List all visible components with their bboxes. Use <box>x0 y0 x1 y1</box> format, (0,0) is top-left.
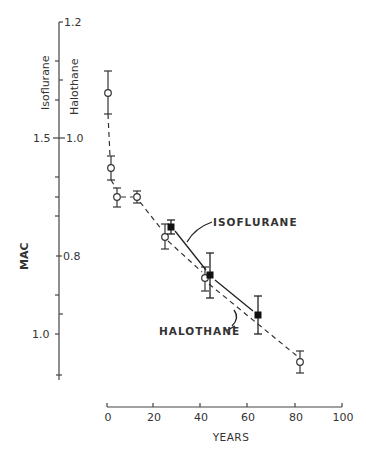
y-tick-isoflurane-1.5: 1.5 <box>33 132 51 145</box>
isoflurane-callout-label: ISOFLURANE <box>213 216 298 228</box>
x-axis-title: YEARS <box>212 431 250 443</box>
isoflurane-point <box>168 224 175 231</box>
x-tick-0: 0 <box>105 411 112 424</box>
y-axis-title: MAC <box>18 242 31 270</box>
x-tick-80: 80 <box>289 411 303 424</box>
halothane-point <box>297 359 304 366</box>
isoflurane-markers <box>168 224 262 319</box>
x-tick-100: 100 <box>333 411 354 424</box>
y-tick-halothane-0.8: 0.8 <box>63 250 81 263</box>
halothane-point <box>162 234 169 241</box>
isoflurane-series <box>167 220 262 334</box>
halothane-point <box>108 165 115 172</box>
y-tick-isoflurane-1.0: 1.0 <box>32 328 50 341</box>
mac-vs-age-chart: 1.2 1.0 0.8 1.5 1.0 Isoflurane Halothane… <box>0 0 366 454</box>
y-axis <box>53 22 65 380</box>
halothane-point <box>134 194 141 201</box>
halothane-callout-label: HALOTHANE <box>159 325 240 337</box>
halothane-point <box>105 90 112 97</box>
y-axis-label-halothane: Halothane <box>68 58 81 115</box>
isoflurane-error-bars <box>167 220 262 334</box>
x-axis <box>107 403 342 407</box>
x-tick-20: 20 <box>147 411 161 424</box>
y-tick-halothane-1.2: 1.2 <box>64 16 82 29</box>
y-axis-label-isoflurane: Isoflurane <box>39 55 52 110</box>
isoflurane-point <box>255 312 262 319</box>
y-tick-halothane-1.0: 1.0 <box>66 132 84 145</box>
x-tick-60: 60 <box>241 411 255 424</box>
x-tick-40: 40 <box>194 411 208 424</box>
halothane-point <box>114 194 121 201</box>
isoflurane-point <box>207 272 214 279</box>
